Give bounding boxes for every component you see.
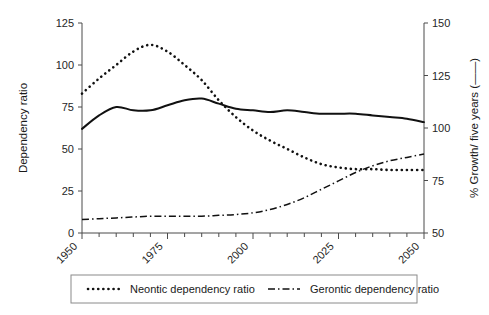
y-axis-left-title: Dependency ratio — [17, 83, 29, 173]
y-axis-right-tick-label: 50 — [432, 227, 444, 239]
y-axis-left-tick-labels: 0255075100125 — [56, 17, 74, 239]
y-axis-right-tick-label: 150 — [432, 17, 450, 29]
x-axis-tick-label: 1975 — [139, 240, 165, 266]
series-line-2 — [82, 98, 424, 128]
y-axis-left-tick-label: 125 — [56, 17, 74, 29]
y-axis-left: 0255075100125 Dependency ratio — [17, 17, 82, 239]
y-axis-right: 5075100125150 % Growth/ five years (——) — [424, 17, 480, 239]
y-axis-left-tick-label: 100 — [56, 59, 74, 71]
x-axis-tick-labels: 19501975200020252050 — [54, 240, 422, 266]
y-axis-right-ticks — [424, 23, 428, 233]
x-axis-tick-label: 2025 — [310, 240, 336, 266]
x-axis-tick-label: 2050 — [396, 240, 422, 266]
series-line-1 — [82, 154, 424, 220]
y-axis-right-tick-label: 125 — [432, 70, 450, 82]
y-axis-left-tick-label: 25 — [62, 185, 74, 197]
y-axis-left-ticks — [78, 23, 82, 233]
chart-legend: Neontic dependency ratioGerontic depende… — [71, 275, 439, 303]
chart-series-group — [82, 45, 424, 220]
legend-label-0: Neontic dependency ratio — [130, 283, 255, 295]
y-axis-left-tick-label: 50 — [62, 143, 74, 155]
x-axis: 19501975200020252050 — [54, 233, 424, 266]
dependency-ratio-line-chart: 0255075100125 Dependency ratio 507510012… — [0, 0, 489, 315]
y-axis-right-tick-label: 100 — [432, 122, 450, 134]
series-line-0 — [82, 45, 424, 170]
x-axis-tick-label: 1950 — [54, 240, 80, 266]
y-axis-right-tick-labels: 5075100125150 — [432, 17, 450, 239]
x-axis-tick-label: 2000 — [225, 240, 251, 266]
y-axis-right-title: % Growth/ five years (——) — [468, 58, 480, 198]
chart-figure: 0255075100125 Dependency ratio 507510012… — [0, 0, 489, 315]
y-axis-left-tick-label: 75 — [62, 101, 74, 113]
y-axis-right-tick-label: 75 — [432, 175, 444, 187]
y-axis-left-tick-label: 0 — [68, 227, 74, 239]
legend-label-1: Gerontic dependency ratio — [310, 283, 439, 295]
x-axis-ticks — [82, 233, 424, 239]
